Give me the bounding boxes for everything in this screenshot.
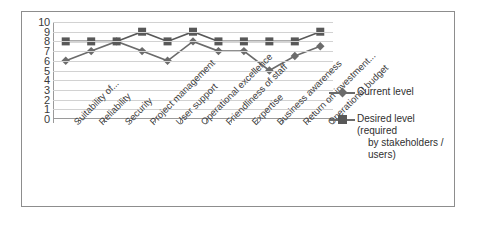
x-axis-label-2: Security — [123, 120, 130, 127]
x-axis-label-1: Reliability — [97, 120, 104, 127]
x-axis-label-0: Suitability of... — [72, 120, 79, 127]
x-axis-label-9: Return on investment... — [301, 120, 308, 127]
chart-legend: Current level Desired level (required by… — [329, 86, 453, 175]
x-axis-label-4: User support — [174, 120, 181, 127]
data-point-diamond — [316, 42, 324, 50]
square-marker-icon — [338, 115, 347, 124]
gridline — [53, 71, 333, 72]
gridline — [53, 41, 333, 42]
x-axis-label-7: Expertise — [250, 120, 257, 127]
diamond-marker-icon — [338, 88, 348, 98]
legend-label-desired-level-line1: Desired level (required — [357, 113, 415, 136]
x-axis-label-8: Business awareness — [275, 120, 282, 127]
gridline — [53, 22, 333, 23]
y-axis-tick-0: 0 — [44, 115, 50, 124]
gridline — [53, 51, 333, 52]
legend-key-square-line — [329, 114, 355, 126]
data-point-diamond — [291, 52, 299, 60]
x-axis-label-3: Project management — [148, 120, 155, 127]
y-axis-tick-labels: 109876543210 — [28, 17, 50, 119]
chart-plot-wrapper: 109876543210 Suitability of...Reliabilit… — [22, 12, 456, 208]
gridline — [53, 32, 333, 33]
chart-frame: 109876543210 Suitability of...Reliabilit… — [21, 11, 455, 207]
legend-label-desired-level: Desired level (required by stakeholders … — [357, 113, 453, 161]
x-axis-label-5: Operational excellence — [199, 120, 206, 127]
x-axis-label-6: Friendliness of staff — [224, 120, 231, 127]
gridline — [53, 61, 333, 62]
gridline — [53, 90, 333, 91]
legend-key-diamond-line — [329, 87, 355, 99]
legend-item-current-level: Current level — [329, 86, 453, 99]
legend-item-desired-level: Desired level (required by stakeholders … — [329, 113, 453, 161]
legend-label-desired-level-line2: by stakeholders / users) — [357, 137, 453, 161]
legend-label-current-level: Current level — [357, 86, 414, 98]
x-axis-category-labels: Suitability of...ReliabilitySecurityProj… — [53, 120, 343, 206]
